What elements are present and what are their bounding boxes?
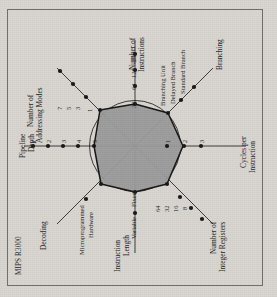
tick-dot-decoding-micro xyxy=(84,197,88,201)
axis-label-cycles-per-instruction-line1: Cycles per xyxy=(240,137,247,168)
tick-label-instructions-256: 256 xyxy=(131,52,137,62)
tick-dot-intregs-16 xyxy=(189,206,193,210)
tick-dot-cpi-1 xyxy=(165,144,169,148)
axis-label-integer-registers-line1: Number of xyxy=(210,222,217,254)
tick-label-pipeline-2: 2 xyxy=(46,140,52,143)
tick-label-addrmodes-1: 1 xyxy=(87,109,93,112)
tick-dot-branching-unit xyxy=(166,111,170,115)
tick-dot-instrlen-variable xyxy=(133,211,137,215)
tick-label-instrlen-variable: Variable xyxy=(131,217,138,239)
tick-dot-pipeline-5 xyxy=(92,144,96,148)
tick-label-instructions-128: 128 xyxy=(131,68,137,78)
tick-label-decoding-microprogrammed: Microprogrammed xyxy=(79,205,86,255)
tick-label-instrlen-fixed: Fixed xyxy=(131,192,138,207)
axis-label-addressing-modes-line1: Number of xyxy=(27,95,34,127)
tick-label-branching-unit: Branching Unit xyxy=(160,65,167,106)
data-polygon-mips-r3000 xyxy=(94,104,183,192)
tick-dot-cpi-3 xyxy=(199,144,203,148)
tick-dot-addrmodes-7 xyxy=(58,69,62,73)
tick-label-addrmodes-5: 5 xyxy=(66,107,72,110)
tick-label-pipeline-5: 5 xyxy=(92,140,98,143)
tick-label-intregs-16: 16 xyxy=(173,206,179,212)
tick-dot-pipeline-2 xyxy=(46,144,50,148)
tick-label-instructions-64: 64 xyxy=(131,84,137,90)
page-title: MIPS R3000 xyxy=(16,236,23,275)
tick-label-intregs-64: 64 xyxy=(155,206,161,212)
tick-label-intregs-8: 8 xyxy=(182,207,188,210)
tick-label-cpi-2: 2 xyxy=(182,140,188,143)
tick-label-branching-standard: Standard Branch xyxy=(180,50,187,94)
tick-dot-pipeline-3 xyxy=(61,144,65,148)
axis-label-branching: Branching xyxy=(216,39,223,70)
tick-dot-branching-delayed xyxy=(179,98,183,102)
tick-label-addrmodes-3: 3 xyxy=(75,107,81,110)
tick-dot-addrmodes-1 xyxy=(98,108,102,112)
tick-dot-addrmodes-5 xyxy=(71,82,75,86)
tick-label-cpi-3: 3 xyxy=(199,140,205,143)
axis-label-pipeline-depth-line1: Pipeline xyxy=(19,134,26,158)
tick-label-pipeline-1: 1 xyxy=(31,140,37,143)
tick-label-pipeline-3: 3 xyxy=(61,140,67,143)
tick-label-instructions-32: 32 xyxy=(131,102,137,108)
tick-label-branching-delayed: Delayed Branch xyxy=(170,61,177,104)
tick-label-pipeline-4: 4 xyxy=(76,140,82,143)
tick-dot-pipeline-4 xyxy=(76,144,80,148)
tick-label-decoding-hardware: Hardware xyxy=(88,212,95,238)
axis-label-number-of-instructions-line2: Instructions xyxy=(138,37,145,72)
tick-label-intregs-32: 32 xyxy=(164,206,170,212)
tick-dot-intregs-8 xyxy=(200,217,204,221)
axis-label-integer-registers-line2: Integer Registers xyxy=(219,222,226,272)
axis-label-addressing-modes-line2: Addressing Modes xyxy=(36,87,43,143)
tick-dot-decoding-hardware xyxy=(99,182,103,186)
tick-dot-intregs-64 xyxy=(165,182,169,186)
axis-label-cycles-per-instruction-line2: Instruction xyxy=(249,141,256,173)
tick-dot-addrmodes-3 xyxy=(84,95,88,99)
axis-label-decoding: Decoding xyxy=(40,221,47,250)
tick-label-cpi-1: 1 xyxy=(165,140,171,143)
tick-label-addrmodes-7: 7 xyxy=(57,107,63,110)
tick-dot-intregs-32 xyxy=(178,195,182,199)
tick-dot-cpi-2 xyxy=(182,144,186,148)
axis-label-instruction-length-line1: Instruction xyxy=(114,240,121,272)
tick-dot-branching-standard xyxy=(192,85,196,89)
